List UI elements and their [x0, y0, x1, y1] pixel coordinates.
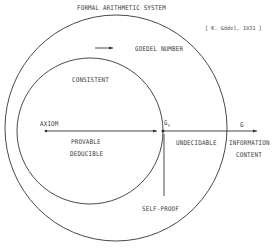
- content-label: CONTENT: [236, 152, 262, 159]
- diagram-title: FORMAL ARITHMETIC SYSTEM: [77, 5, 166, 12]
- axiom-point: [45, 130, 48, 133]
- g-label: G: [240, 122, 244, 129]
- deducible-label: DEDUCIBLE: [70, 151, 103, 158]
- gc-label: Gc: [164, 120, 171, 128]
- consistent-label: CONSISTENT: [72, 77, 109, 84]
- citation: [ K. Gödel, 1931 ]: [205, 26, 262, 32]
- information-label: INFORMATION: [229, 140, 270, 147]
- undecidable-label: UNDECIDABLE: [176, 140, 217, 147]
- formal-system-circle: [5, 15, 227, 241]
- gc-subscript: c: [168, 122, 171, 128]
- provable-label: PROVABLE: [71, 139, 101, 146]
- goedel-number-label: GOEDEL NUMBER: [135, 46, 183, 53]
- self-proof-label: SELF-PROOF: [142, 206, 179, 213]
- axiom-label: AXIOM: [40, 121, 59, 128]
